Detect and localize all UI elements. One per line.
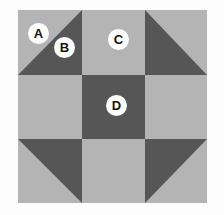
patch-r2c3-light: [145, 75, 207, 139]
block-row-3: [18, 139, 207, 203]
patch-r3c1: [18, 139, 82, 203]
callout-label-c: C: [108, 29, 129, 50]
patch-r3c2-light: [82, 139, 145, 203]
callout-label-a: A: [28, 23, 49, 44]
patch-r2c1-light: [18, 75, 82, 139]
patch-r1c3: [145, 10, 207, 75]
diagram-canvas: A B C D: [0, 0, 224, 215]
patch-r3c3: [145, 139, 207, 203]
callout-label-c-text: C: [114, 32, 123, 47]
callout-label-b-text: B: [60, 40, 69, 55]
callout-label-d-text: D: [112, 98, 121, 113]
callout-label-d: D: [106, 95, 127, 116]
callout-label-b: B: [54, 37, 75, 58]
callout-label-a-text: A: [34, 26, 43, 41]
